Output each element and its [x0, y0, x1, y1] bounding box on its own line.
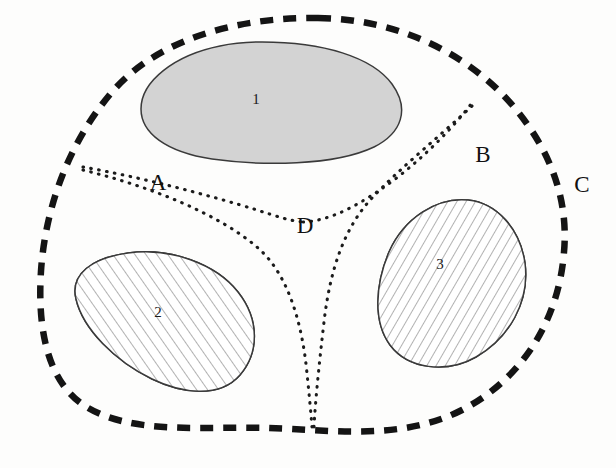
region-2-group[interactable]: 2	[75, 252, 254, 391]
region-1-group[interactable]: 1	[141, 42, 402, 163]
zone-label-b: B	[475, 142, 490, 167]
diagram-canvas: 1 2 3 A B C D	[0, 0, 616, 468]
region-2-shape[interactable]	[75, 252, 254, 391]
region-3-shape[interactable]	[378, 200, 526, 367]
region-diagram: 1 2 3 A B C D	[0, 0, 616, 468]
region-1-shape[interactable]	[141, 42, 402, 163]
region-3-group[interactable]: 3	[378, 200, 526, 367]
divider-upper-left	[83, 167, 303, 222]
region-1-label: 1	[252, 91, 260, 107]
zone-label-a: A	[150, 170, 167, 195]
zone-label-c: C	[574, 172, 589, 197]
region-3-label: 3	[436, 256, 444, 272]
region-2-label: 2	[154, 304, 162, 320]
zone-label-d: D	[297, 213, 314, 238]
